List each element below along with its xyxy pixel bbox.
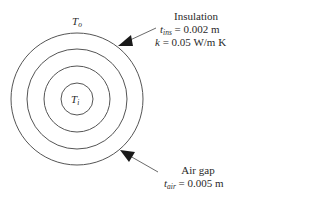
insulation-annotation: Insulation	[158, 10, 234, 23]
air-gap-thickness: tair = 0.005 m	[164, 177, 224, 191]
air-gap-title: Air gap	[170, 164, 226, 177]
inner-temperature-label: Ti	[71, 93, 79, 107]
insulation-arrow	[118, 28, 156, 46]
insulation-title: Insulation	[158, 10, 234, 23]
outer-temperature-label: To	[72, 15, 82, 29]
insulation-conductivity: k = 0.05 W/m K	[155, 36, 226, 49]
air-gap-arrow	[120, 150, 158, 172]
insulation-thickness: tins = 0.002 m	[160, 23, 220, 37]
